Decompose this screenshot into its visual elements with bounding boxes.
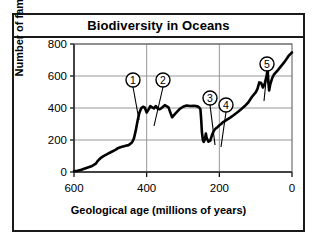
plot-area: 0200400600800 6004002000 12345 [14, 38, 307, 232]
y-tick-label: 200 [48, 134, 67, 146]
x-tick-label: 400 [137, 182, 156, 194]
x-tick-label: 600 [64, 182, 83, 194]
data-series-line [74, 52, 292, 171]
y-tick-label: 0 [61, 166, 67, 178]
chart-title-bar: Biodiversity in Oceans [14, 15, 303, 38]
annotation-markers: 12345 [126, 57, 274, 147]
x-tick-label: 200 [210, 182, 229, 194]
annotation-label-5: 5 [264, 58, 270, 70]
y-tick-label: 400 [48, 102, 67, 114]
annotation-label-2: 2 [160, 74, 166, 86]
x-tick-label: 0 [289, 182, 295, 194]
x-tick-labels: 6004002000 [64, 182, 295, 194]
x-tick-marks [74, 172, 292, 177]
y-tick-label: 800 [48, 38, 67, 50]
chart-figure: Biodiversity in Oceans Number of familie… [12, 13, 305, 232]
chart-body: Number of families Geological age (milli… [14, 38, 303, 232]
annotation-label-3: 3 [207, 92, 213, 104]
annotation-leader-line [221, 112, 226, 147]
y-tick-marks [70, 44, 74, 172]
annotation-label-1: 1 [130, 74, 136, 86]
annotation-leader-line [133, 87, 139, 120]
y-tick-label: 600 [48, 70, 67, 82]
y-tick-labels: 0200400600800 [48, 38, 67, 178]
annotation-label-4: 4 [223, 99, 229, 111]
page-title: Biodiversity in Oceans [87, 18, 229, 33]
